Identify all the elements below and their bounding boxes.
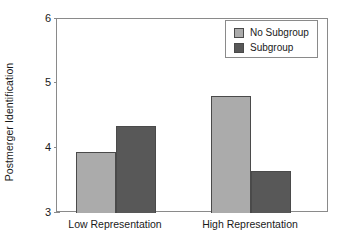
- y-axis-tick: 3: [30, 212, 60, 213]
- y-axis-tick-mark: [54, 212, 60, 213]
- bar-chart: Postmerger Identification 3 4 5 6 Low Re…: [0, 0, 344, 245]
- y-axis-tick-label: 3: [45, 204, 51, 220]
- legend-item: Subgroup: [226, 40, 317, 55]
- legend-item-label: No Subgroup: [250, 26, 309, 39]
- legend-color-swatch: [234, 28, 244, 38]
- bar: [76, 152, 116, 213]
- bar: [211, 96, 251, 213]
- y-axis-title: Postmerger Identification: [1, 25, 17, 220]
- legend-item-label: Subgroup: [250, 41, 293, 54]
- legend-color-swatch: [234, 43, 244, 53]
- y-axis-tick-label: 5: [45, 74, 51, 90]
- y-axis-tick-label: 4: [45, 139, 51, 155]
- x-axis-group-label: High Representation: [189, 216, 311, 232]
- bar: [251, 171, 291, 213]
- legend: No Subgroup Subgroup: [225, 20, 318, 58]
- y-axis-tick-label: 6: [45, 10, 51, 26]
- bar: [116, 126, 156, 213]
- x-axis-group-label: Low Representation: [54, 216, 176, 232]
- legend-item: No Subgroup: [226, 25, 317, 40]
